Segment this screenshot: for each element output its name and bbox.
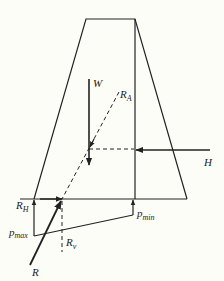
retaining-wall-force-diagram: W RA H RH pmax pmin Rv R <box>0 0 224 281</box>
wall-outline <box>34 19 187 199</box>
label-ra: RA <box>119 88 132 103</box>
resultant-ra-arrowhead <box>90 139 94 147</box>
label-w: W <box>93 77 103 89</box>
resultant-r-arrow <box>30 201 61 265</box>
label-pmin: pmin <box>136 207 155 222</box>
label-h: H <box>203 156 213 168</box>
label-rv: Rv <box>65 236 77 251</box>
label-r: R <box>31 266 39 278</box>
label-rh: RH <box>15 199 30 214</box>
label-pmax: pmax <box>8 226 28 240</box>
